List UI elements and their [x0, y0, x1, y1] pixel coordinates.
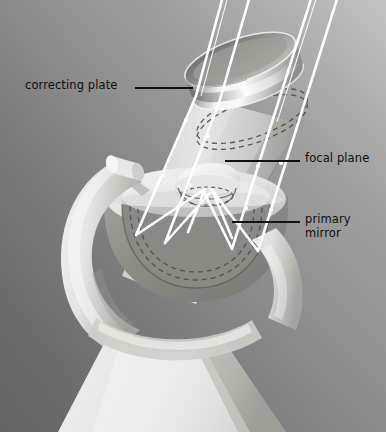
- label-primary-mirror: primarymirror: [305, 212, 351, 240]
- label-correcting-plate: correcting plate: [25, 78, 117, 92]
- label-primary-mirror-line1: primary: [305, 212, 351, 226]
- telescope-diagram: correcting plate focal plane primarymirr…: [0, 0, 386, 432]
- label-focal-plane: focal plane: [305, 151, 369, 165]
- label-primary-mirror-line2: mirror: [305, 226, 341, 240]
